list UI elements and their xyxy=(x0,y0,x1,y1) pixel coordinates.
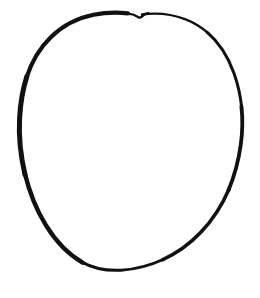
drawing-canvas: A single closed hand-drawn oval (ellipse… xyxy=(0,0,260,298)
background-rect xyxy=(0,0,260,298)
oval-sketch-svg xyxy=(0,0,260,298)
